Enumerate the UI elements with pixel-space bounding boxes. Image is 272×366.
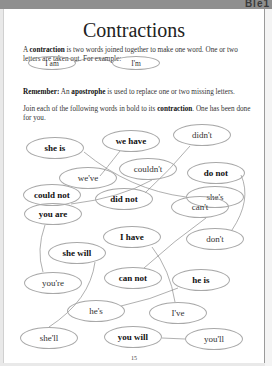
header-corner-text: Ble1 [245,0,270,9]
word-oval-she-ll[interactable]: she'll [20,327,78,349]
word-oval-i-ve[interactable]: I've [149,302,207,324]
word-oval-don-t[interactable]: don't [186,228,244,250]
word-oval-we-have[interactable]: we have [102,130,160,152]
word-oval-you-ll[interactable]: you'll [185,328,243,350]
remember-term: apostrophe [71,88,105,96]
remember-paragraph: Remember: An apostrophe is used to repla… [23,88,251,97]
remember-label: Remember: [23,88,59,96]
page-gutter [265,9,272,366]
instruction-prefix: Join each of the following words in bold… [23,105,157,113]
word-oval-can-not[interactable]: can not [104,267,162,289]
example-oval-contraction[interactable]: I'm [112,56,160,70]
instruction-paragraph: Join each of the following words in bold… [23,105,251,123]
word-oval-you-are[interactable]: you are [24,203,82,225]
remember-suffix: is used to replace one or two missing le… [106,88,235,96]
word-oval-do-not[interactable]: do not [187,162,245,184]
word-oval-didn-t[interactable]: didn't [173,124,231,146]
word-oval-couldn-t[interactable]: couldn't [119,158,177,180]
intro-prefix: A [23,46,30,54]
word-oval-i-have[interactable]: I have [103,226,161,248]
page-title: Contractions [4,19,264,42]
page-number: 15 [4,355,264,361]
word-oval-she-will[interactable]: she will [48,242,106,264]
top-header-bar: Ble1 [0,0,272,9]
word-oval-he-is[interactable]: he is [172,269,230,291]
word-oval-can-t[interactable]: can't [171,196,229,218]
remember-prefix: An [59,88,71,96]
intro-term: contraction [30,46,65,54]
word-oval-she-is[interactable]: she is [26,137,84,159]
word-oval-he-s[interactable]: he's [67,300,125,322]
word-oval-did-not[interactable]: did not [95,188,153,210]
instruction-term: contraction [157,105,192,113]
word-oval-you-re[interactable]: you're [24,272,82,294]
example-oval-full[interactable]: I am [28,56,76,70]
word-oval-you-will[interactable]: you will [104,326,162,348]
